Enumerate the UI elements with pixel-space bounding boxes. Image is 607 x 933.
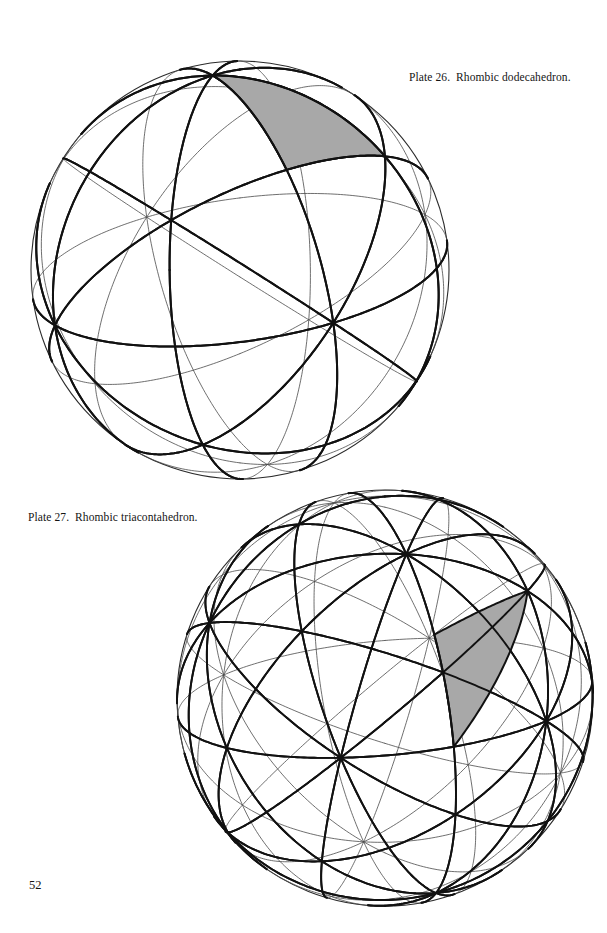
page-canvas: Plate 26. Rhombic dodecahedron. Plate 27…: [0, 0, 607, 933]
figure-plate-27: [0, 0, 607, 933]
page-number: 52: [29, 878, 42, 893]
great-circle-front-arc: [368, 905, 385, 906]
caption-plate-26: Plate 26. Rhombic dodecahedron.: [409, 70, 571, 84]
caption-plate-27: Plate 27. Rhombic triacontahedron.: [28, 510, 198, 524]
